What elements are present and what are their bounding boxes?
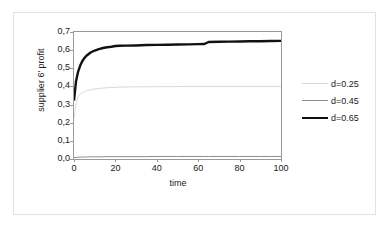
x-axis-tick-mark: [74, 159, 75, 162]
y-axis-tick-label: 0,5: [46, 63, 70, 72]
y-axis-tick-labels: 0,00,10,20,30,40,50,60,7: [43, 31, 70, 160]
x-axis-tick-mark: [198, 159, 199, 162]
legend-line-swatch: [302, 97, 328, 105]
x-axis-tick-mark: [281, 159, 282, 162]
x-axis-tick-label: 80: [225, 163, 255, 173]
y-axis-tick-label: 0,7: [46, 27, 70, 36]
x-axis-tick-label: 40: [142, 163, 172, 173]
legend-line-swatch: [302, 114, 328, 122]
series-line: [74, 156, 281, 157]
x-axis-tick-labels: 020406080100: [73, 163, 283, 177]
y-axis-tick-label: 0,4: [46, 81, 70, 90]
y-axis-tick-label: 0,3: [46, 100, 70, 109]
chart-legend: d=0.25d=0.45d=0.65: [302, 75, 377, 126]
x-axis-tick-label: 60: [183, 163, 213, 173]
series-line: [74, 86, 281, 118]
x-axis-tick-label: 0: [59, 163, 89, 173]
y-axis-tick-label: 0,6: [46, 45, 70, 54]
y-axis-tick-label: 0,0: [46, 154, 70, 163]
y-axis-tick-label: 0,1: [46, 136, 70, 145]
x-axis-title: time: [73, 178, 283, 188]
x-axis-tick-label: 20: [100, 163, 130, 173]
legend-item-label: d=0.25: [328, 79, 359, 89]
legend-item[interactable]: d=0.25: [302, 75, 377, 92]
legend-item[interactable]: d=0.65: [302, 109, 377, 126]
legend-item-label: d=0.45: [328, 96, 359, 106]
y-axis-tick-label: 0,2: [46, 118, 70, 127]
x-axis-tick-mark: [157, 159, 158, 162]
legend-line-swatch: [302, 80, 328, 88]
x-axis-tick-mark: [240, 159, 241, 162]
series-line: [74, 41, 281, 101]
chart-figure: supplier 6' profit 0,00,10,20,30,40,50,6…: [13, 12, 376, 215]
legend-item[interactable]: d=0.45: [302, 92, 377, 109]
x-axis-tick-label: 100: [266, 163, 296, 173]
legend-item-label: d=0.65: [328, 113, 359, 123]
plot-lines: [74, 32, 281, 159]
x-axis-tick-mark: [115, 159, 116, 162]
plot-area: [73, 31, 282, 160]
